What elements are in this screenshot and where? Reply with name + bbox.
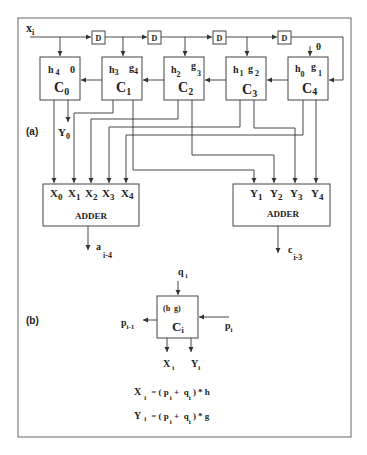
y0-output-label: Y0: [58, 126, 70, 141]
cell-c2: h2 g3 C2: [164, 57, 204, 100]
systolic-array-diagram: xi D D D D 0 h4: [0, 0, 367, 455]
wire-x2: [91, 100, 178, 183]
svg-text:(h g): (h g): [163, 304, 181, 313]
p-input-label: pi: [225, 320, 233, 334]
part-a-label: (a): [26, 126, 38, 137]
part-a: xi D D D D 0 h4: [26, 21, 343, 262]
adder-y: Y1 Y2 Y3 Y4 ADDER: [233, 184, 330, 226]
svg-text:D: D: [152, 34, 158, 43]
part-b: qi (h g) Ci pi pi-1 Xi Yi (b) Xi= ( pi +…: [26, 266, 233, 426]
equation-y: Yi= ( pi + qi ) * g: [134, 410, 210, 426]
c4-zero-input: 0: [316, 41, 321, 52]
wire-x1: [74, 100, 113, 183]
delay-element: D: [92, 31, 105, 44]
adder-x-title: ADDER: [75, 211, 108, 221]
yi-output-label: Yi: [191, 358, 200, 372]
svg-text:D: D: [96, 34, 102, 43]
q-input-label: qi: [178, 266, 188, 280]
svg-text:D: D: [217, 34, 223, 43]
adder-x-output-label: ai-4: [96, 241, 112, 260]
p-output-label: pi-1: [121, 317, 135, 331]
cell-c4: h0 g1 C4: [288, 57, 328, 100]
xi-output-label: Xi: [163, 358, 174, 372]
svg-text:0: 0: [70, 64, 75, 75]
delay-element: D: [213, 31, 226, 44]
adder-x: X0 X1 X2 X3 X4 ADDER: [43, 184, 139, 226]
wire-y1: [133, 100, 254, 183]
cell-c3: h1 g2 C3: [226, 57, 266, 100]
wire-y2: [192, 100, 274, 183]
equation-x: Xi= ( pi + qi ) * h: [134, 386, 210, 402]
svg-text:D: D: [282, 34, 288, 43]
wire-y3: [254, 100, 295, 183]
adder-y-title: ADDER: [267, 209, 300, 219]
delay-element: D: [148, 31, 161, 44]
wire-x4: [126, 100, 303, 183]
adder-y-output-label: ci-3: [288, 244, 302, 262]
cell-ci: (h g) Ci: [157, 296, 198, 338]
part-b-label: (b): [26, 315, 39, 326]
delay-element: D: [278, 31, 291, 44]
cell-c0: h4 0 C0: [40, 57, 80, 100]
cell-c1: h3 g4 C1: [102, 57, 142, 100]
wire-x3: [109, 100, 240, 183]
input-x-label: xi: [26, 21, 35, 37]
